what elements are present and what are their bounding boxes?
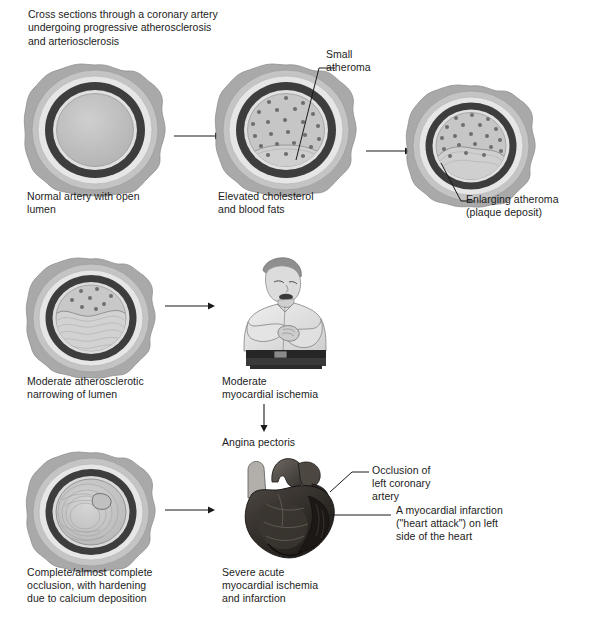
artery-cross-section-cholesterol bbox=[213, 62, 359, 198]
callout-small-atheroma: Small atheroma bbox=[326, 48, 371, 74]
caption-heart-infarction: Severe acute myocardial ischemia and inf… bbox=[222, 566, 318, 606]
page-title: Cross sections through a coronary artery… bbox=[28, 8, 218, 48]
arrow-stage4-to-man bbox=[165, 301, 215, 311]
caption-stage-1: Normal artery with open lumen bbox=[27, 190, 140, 216]
diagram-page: Cross sections through a coronary artery… bbox=[0, 0, 591, 631]
artery-cross-section-complete-occlusion bbox=[24, 450, 158, 574]
man-with-chest-pain-figure bbox=[222, 256, 348, 371]
caption-angina-pectoris: Angina pectoris bbox=[222, 436, 295, 449]
caption-stage-5: Complete/almost complete occlusion, with… bbox=[27, 566, 153, 606]
caption-stage-2: Elevated cholesterol and blood fats bbox=[218, 190, 314, 216]
artery-cross-section-moderate-narrowing bbox=[24, 256, 158, 380]
leader-line-occlusion bbox=[330, 466, 370, 496]
caption-stage-4: Moderate atherosclerotic narrowing of lu… bbox=[27, 375, 144, 401]
callout-occlusion-left-coronary: Occlusion of left coronary artery bbox=[372, 464, 430, 504]
arrow-to-angina-pectoris bbox=[259, 404, 269, 432]
arrow-stage5-to-heart bbox=[165, 505, 215, 515]
caption-man-ischemia: Moderate myocardial ischemia bbox=[222, 375, 318, 401]
callout-myocardial-infarction: A myocardial infarction ("heart attack")… bbox=[396, 504, 503, 544]
callout-enlarging-atheroma: Enlarging atheroma (plaque deposit) bbox=[466, 193, 559, 219]
artery-cross-section-normal bbox=[22, 62, 168, 198]
leader-line-infarction bbox=[330, 511, 392, 519]
